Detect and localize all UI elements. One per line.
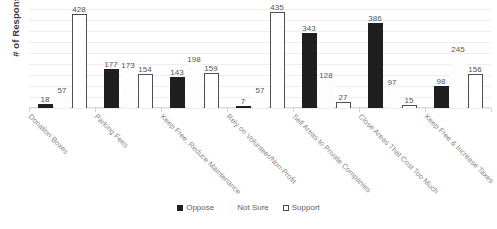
bar-value-label: 97 [388,78,397,87]
bar-slot: 156 [468,9,483,108]
bar-slot: 386 [368,9,383,108]
bar-groups: 1857428177173154143198159757435343128273… [29,9,491,108]
bar-value-label: 27 [339,93,348,102]
bar-slot: 98 [434,9,449,108]
bar-value-label: 57 [256,86,265,95]
x-axis-labels: Donation BoxesParking FeesKeep Free, Red… [29,112,491,196]
bar-value-label: 98 [437,77,446,86]
bar-notsure[interactable]: 245 [451,54,466,108]
bar-notsure[interactable]: 128 [319,80,334,108]
bar-slot: 57 [55,9,70,108]
legend-item-support[interactable]: Support [283,203,320,212]
bar-slot: 435 [270,9,285,108]
bar-group: 3869715 [359,9,425,108]
legend-item-oppose[interactable]: Oppose [177,203,214,212]
legend-item-notsure[interactable]: Not Sure [228,203,269,212]
x-axis-label: Keep Free & Increase Taxes [423,112,496,185]
bar-group: 98245156 [425,9,491,108]
bar-value-label: 18 [41,95,50,104]
bar-oppose[interactable]: 143 [170,77,185,108]
bar-slot: 97 [385,9,400,108]
bar-notsure[interactable]: 57 [253,95,268,108]
outline-square-icon [283,205,289,211]
bar-slot: 173 [121,9,136,108]
bar-slot: 15 [402,9,417,108]
bar-value-label: 343 [302,24,315,33]
bar-value-label: 57 [58,86,67,95]
bar-slot: 343 [302,9,317,108]
filled-square-icon [177,205,183,211]
bar-value-label: 128 [319,71,332,80]
legend-label: Oppose [186,203,214,212]
bar-slot: 177 [104,9,119,108]
bar-notsure[interactable]: 173 [121,70,136,108]
bar-group: 34312827 [293,9,359,108]
bar-value-label: 428 [72,5,85,14]
bar-value-label: 156 [468,65,481,74]
bar-value-label: 159 [204,64,217,73]
bar-slot: 428 [72,9,87,108]
chart-legend: OpposeNot SureSupport [0,203,497,212]
bar-group: 757435 [227,9,293,108]
bar-slot: 154 [138,9,153,108]
plot-area: 1857428177173154143198159757435343128273… [29,9,491,108]
bar-support[interactable]: 156 [468,74,483,108]
bar-slot: 27 [336,9,351,108]
bar-value-label: 245 [451,45,464,54]
legend-label: Not Sure [237,203,269,212]
bar-support[interactable]: 428 [72,14,87,108]
bar-oppose[interactable]: 177 [104,69,119,108]
bar-value-label: 7 [241,97,245,106]
bar-group: 177173154 [95,9,161,108]
bar-group: 143198159 [161,9,227,108]
bar-oppose[interactable]: 98 [434,86,449,108]
bar-slot: 245 [451,9,466,108]
bar-notsure[interactable]: 198 [187,64,202,108]
light-square-icon [228,205,234,211]
bar-value-label: 386 [368,14,381,23]
bar-slot: 198 [187,9,202,108]
bar-slot: 143 [170,9,185,108]
bar-group: 1857428 [29,9,95,108]
x-axis-label: Rely on Volunteer/Non-Profit [225,112,299,186]
x-axis-label: Donation Boxes [27,112,71,156]
bar-slot: 57 [253,9,268,108]
bar-oppose[interactable]: 386 [368,23,383,108]
bar-support[interactable]: 159 [204,73,219,108]
bar-slot: 159 [204,9,219,108]
bar-support[interactable]: 435 [270,12,285,108]
x-axis-label: Parking Fees [93,112,131,150]
bar-value-label: 198 [187,55,200,64]
x-axis-label: Close Areas That Cost Too Much [357,112,441,196]
bar-slot: 128 [319,9,334,108]
bar-value-label: 173 [121,61,134,70]
bar-oppose[interactable]: 343 [302,33,317,108]
bar-chart: # of Responses 1857428177173154143198159… [0,0,497,229]
bar-notsure[interactable]: 97 [385,87,400,108]
legend-label: Support [292,203,320,212]
bar-value-label: 143 [170,68,183,77]
y-axis-title: # of Responses [10,0,24,76]
bar-value-label: 15 [405,96,414,105]
bar-support[interactable]: 154 [138,74,153,108]
x-axis-tick [491,108,492,112]
bar-value-label: 435 [270,3,283,12]
bar-value-label: 177 [104,60,117,69]
bar-slot: 18 [38,9,53,108]
bar-value-label: 154 [138,65,151,74]
bar-slot: 7 [236,9,251,108]
bar-notsure[interactable]: 57 [55,95,70,108]
x-axis-label: Sell Areas to Private Companies [291,112,373,194]
